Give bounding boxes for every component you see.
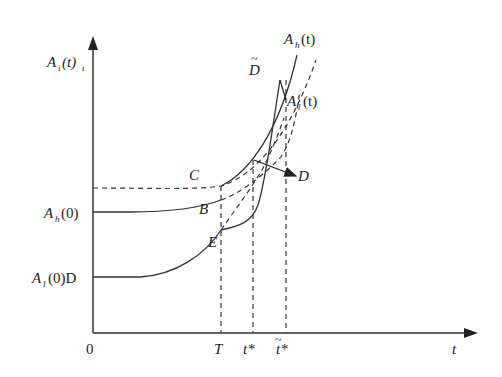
origin-label: 0 [86,341,94,357]
point-C: C [189,167,200,183]
point-E: E [207,234,217,250]
al-solid-lower [93,230,221,277]
svg-text:(0)D: (0)D [48,270,76,287]
svg-text:A: A [46,54,57,70]
upper-dashed-curve [93,60,316,189]
x-axis-label: t [452,341,457,357]
tick-T: T [214,341,224,357]
svg-text:~: ~ [251,52,258,66]
ah0-tick-label: A h (0) [43,205,79,224]
axes [88,36,478,338]
svg-text:A: A [43,205,54,221]
svg-text:A: A [283,31,294,47]
svg-text:(t): (t) [303,93,317,110]
growth-diagram: A i (t) t A h (0) A l (0)D 0 T t* t* ~ t… [0,0,502,377]
svg-text:A: A [31,270,42,286]
tick-ttilde-star: t* ~ [275,333,288,357]
d-tilde-label: D ~ [248,52,260,78]
al-catchup-curve [221,80,280,230]
arrow-from-catchup [280,80,286,100]
point-D: D [297,168,309,184]
point-B: B [199,201,208,217]
svg-text:i: i [58,63,61,73]
svg-text:l: l [43,279,46,289]
tick-tstar: t* [243,341,255,357]
svg-text:h: h [55,214,60,224]
y-axis-label: A i (t) t [46,54,85,73]
svg-text:h: h [295,40,300,50]
ah-curve-label: A h (t) [283,31,315,50]
svg-text:(t): (t) [62,54,76,71]
svg-text:~: ~ [275,333,282,347]
y-axis-arrow-icon [88,36,98,50]
svg-text:l: l [298,102,301,112]
svg-text:t: t [82,63,85,73]
svg-text:A: A [286,93,297,109]
al0-tick-label: A l (0)D [31,270,76,289]
x-axis-arrow-icon [464,328,478,338]
svg-text:(t): (t) [301,31,315,48]
svg-text:(0): (0) [61,205,79,222]
